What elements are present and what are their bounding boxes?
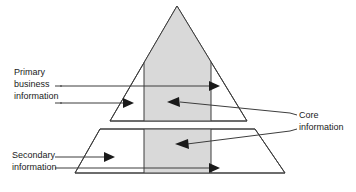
secondary-label-line2: information: [12, 162, 57, 172]
core-label-line1: Core: [299, 110, 319, 120]
core-leader-lower: [290, 129, 297, 131]
primary-label-line3: information: [14, 91, 59, 101]
core-leader-upper: [290, 113, 297, 115]
primary-label-line1: Primary: [14, 67, 45, 77]
primary-label-line2: business: [14, 79, 50, 89]
diagram-canvas: Primary business information Secondary i…: [0, 0, 356, 192]
information-pyramid-diagram: Primary business information Secondary i…: [0, 0, 356, 192]
core-label-line2: information: [299, 122, 344, 132]
core-band-trapezoid: [144, 128, 211, 174]
secondary-label-line1: Secondary: [12, 150, 56, 160]
